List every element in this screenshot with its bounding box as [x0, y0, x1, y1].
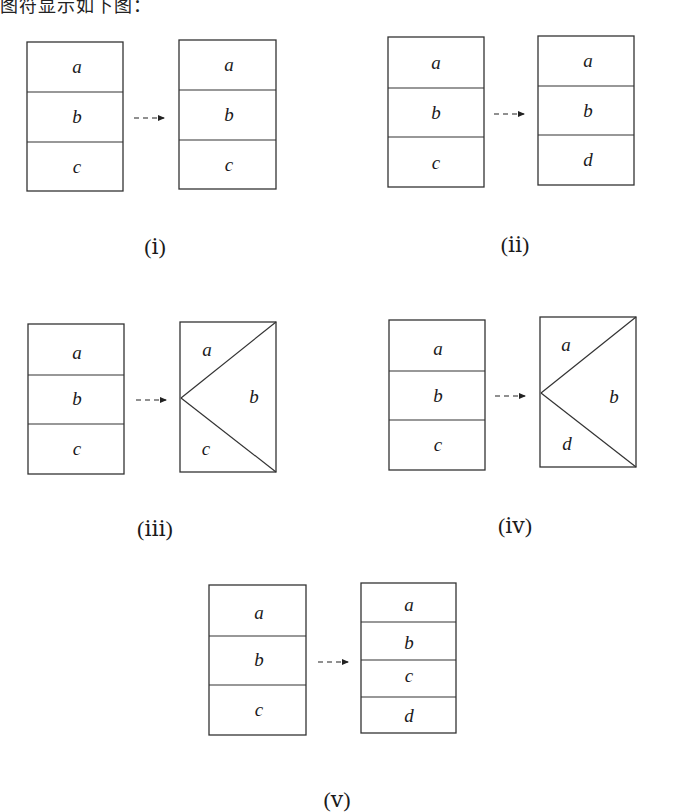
caption: (ⅱ) [501, 232, 530, 257]
cell-label: b [404, 632, 414, 653]
caption: (ⅴ) [323, 787, 350, 812]
cell-label: b [609, 386, 619, 407]
cell-label: a [224, 54, 234, 75]
after-wedge-box: a b d [540, 317, 636, 467]
after-box: a b c d [361, 583, 456, 733]
cell-label: b [431, 102, 441, 123]
cell-label: b [433, 385, 443, 406]
diagram-v: a b c a b c d (ⅴ) [209, 583, 456, 812]
cell-label: a [202, 339, 212, 360]
cell-label: b [72, 388, 82, 409]
caption: (ⅲ) [137, 516, 173, 541]
cell-label: c [432, 152, 441, 173]
cell-label: b [249, 386, 259, 407]
cell-label: d [583, 149, 593, 170]
cell-label: d [404, 705, 414, 726]
cell-label: b [583, 100, 593, 121]
after-box: a b c [179, 40, 276, 189]
before-box: a b c [28, 324, 124, 474]
cell-label: c [434, 434, 443, 455]
cell-label: a [583, 50, 593, 71]
cell-label: b [254, 649, 264, 670]
cell-label: c [202, 438, 211, 459]
after-wedge-box: a b c [180, 322, 276, 472]
caption: (ⅳ) [498, 513, 532, 538]
before-box: a b c [389, 320, 485, 470]
cell-label: a [431, 52, 441, 73]
cell-label: b [224, 104, 234, 125]
diagram-iv: a b c a b d (ⅳ) [389, 317, 636, 538]
cell-label: c [73, 438, 82, 459]
diagram-ii: a b c a b d (ⅱ) [388, 36, 634, 257]
cell-label: a [561, 334, 571, 355]
cell-label: a [433, 338, 443, 359]
cell-label: a [404, 594, 414, 615]
before-box: a b c [209, 585, 306, 735]
cell-label: a [72, 56, 82, 77]
cell-label: c [73, 156, 82, 177]
cell-label: b [72, 106, 82, 127]
diagram-iii: a b c a b c (ⅲ) [28, 322, 276, 541]
before-box: a b c [27, 42, 123, 191]
before-box: a b c [388, 37, 484, 187]
cell-label: c [255, 699, 264, 720]
cell-label: a [254, 602, 264, 623]
cell-label: d [562, 433, 572, 454]
cell-label: c [225, 154, 234, 175]
cell-label: c [405, 665, 414, 686]
caption: (ⅰ) [144, 234, 166, 259]
diagram-i: a b c a b c (ⅰ) [27, 40, 276, 259]
diagram-canvas: a b c a b c (ⅰ) a b c a [0, 0, 691, 812]
cell-label: a [72, 342, 82, 363]
after-box: a b d [538, 36, 634, 185]
